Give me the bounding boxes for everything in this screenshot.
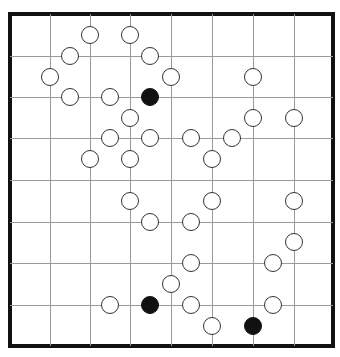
white-pearl-icon xyxy=(141,47,159,65)
grid-line-horizontal xyxy=(10,305,333,306)
white-pearl-icon xyxy=(61,88,79,106)
white-pearl-icon xyxy=(264,296,282,314)
grid-line-horizontal xyxy=(10,56,333,57)
black-pearl-icon xyxy=(244,317,262,335)
white-pearl-icon xyxy=(141,129,159,147)
white-pearl-icon xyxy=(162,275,180,293)
white-pearl-icon xyxy=(61,47,79,65)
white-pearl-icon xyxy=(162,68,180,86)
white-pearl-icon xyxy=(101,129,119,147)
white-pearl-icon xyxy=(182,213,200,231)
white-pearl-icon xyxy=(244,68,262,86)
white-pearl-icon xyxy=(121,26,139,44)
grid-line-horizontal xyxy=(10,263,333,264)
white-pearl-icon xyxy=(285,192,303,210)
grid-line-horizontal xyxy=(10,97,333,98)
white-pearl-icon xyxy=(203,150,221,168)
white-pearl-icon xyxy=(203,317,221,335)
white-pearl-icon xyxy=(182,254,200,272)
white-pearl-icon xyxy=(141,213,159,231)
white-pearl-icon xyxy=(182,129,200,147)
white-pearl-icon xyxy=(203,192,221,210)
white-pearl-icon xyxy=(285,233,303,251)
grid-line-horizontal xyxy=(10,222,333,223)
white-pearl-icon xyxy=(101,88,119,106)
grid-line-horizontal xyxy=(10,180,333,181)
white-pearl-icon xyxy=(285,109,303,127)
black-pearl-icon xyxy=(141,296,159,314)
white-pearl-icon xyxy=(244,109,262,127)
white-pearl-icon xyxy=(121,192,139,210)
white-pearl-icon xyxy=(121,150,139,168)
white-pearl-icon xyxy=(101,296,119,314)
white-pearl-icon xyxy=(223,129,241,147)
white-pearl-icon xyxy=(121,109,139,127)
white-pearl-icon xyxy=(264,254,282,272)
black-pearl-icon xyxy=(141,88,159,106)
white-pearl-icon xyxy=(81,150,99,168)
white-pearl-icon xyxy=(41,68,59,86)
white-pearl-icon xyxy=(81,26,99,44)
grid-line-horizontal xyxy=(10,138,333,139)
white-pearl-icon xyxy=(182,296,200,314)
